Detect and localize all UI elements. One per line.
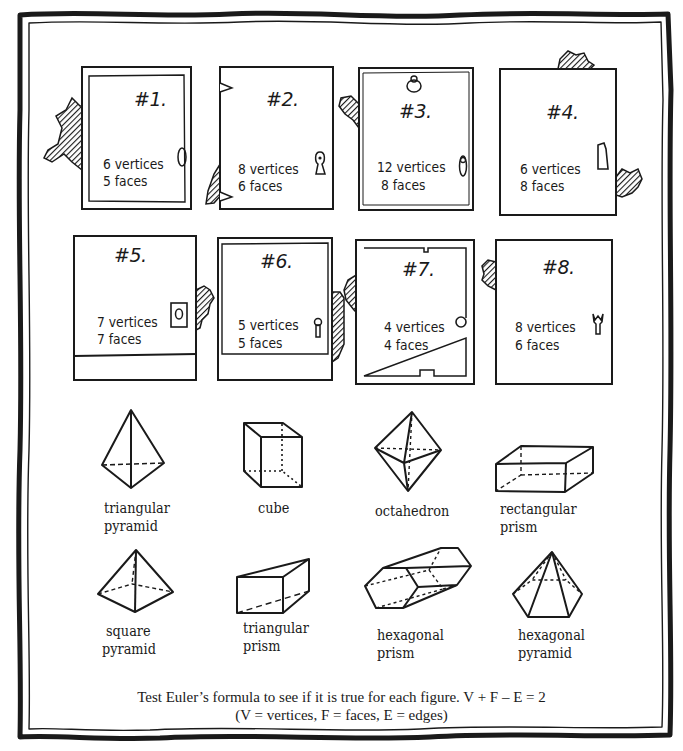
door-5-drawing	[72, 234, 222, 384]
shape-hexagonal-prism: hexagonal prism	[363, 548, 483, 666]
door-3: #3. 12 vertices 8 faces	[335, 66, 485, 216]
door-vertices: 7 vertices	[97, 314, 158, 331]
shape-label: hexagonal	[377, 626, 444, 644]
door-vertices: 6 vertices	[520, 161, 581, 178]
creature-icon	[44, 98, 82, 170]
rectangular-prism-icon	[490, 440, 630, 500]
door-vertices: 12 vertices	[377, 159, 446, 176]
shape-triangular-pyramid: triangular pyramid	[90, 405, 200, 535]
door-faces: 5 faces	[238, 335, 282, 352]
shape-octahedron: octahedron	[370, 408, 480, 528]
door-number: #3.	[399, 100, 432, 122]
shape-triangular-prism: triangular prism	[235, 555, 355, 660]
door-vertices: 4 vertices	[384, 319, 445, 336]
creature-icon	[616, 169, 642, 197]
door-vertices: 5 vertices	[238, 317, 299, 334]
shape-label: prism	[500, 518, 537, 536]
door-number: #1.	[134, 88, 167, 110]
shape-label: triangular	[243, 619, 309, 637]
door-1-drawing	[42, 66, 212, 216]
shape-cube: cube	[238, 415, 328, 525]
cube-icon	[238, 415, 328, 495]
shape-hexagonal-pyramid: hexagonal pyramid	[510, 550, 610, 668]
door-number: #6.	[260, 250, 293, 272]
door-faces: 6 faces	[515, 337, 559, 354]
shape-label: square	[106, 622, 151, 640]
triangular-pyramid-icon	[90, 405, 200, 495]
shape-label: prism	[243, 637, 280, 655]
square-pyramid-icon	[92, 548, 202, 623]
door-faces: 4 faces	[384, 337, 428, 354]
door-6: #6. 5 vertices 5 faces	[216, 234, 356, 384]
door-number: #4.	[546, 101, 579, 123]
shape-label: pyramid	[104, 517, 158, 535]
hexagonal-prism-icon	[363, 548, 483, 628]
door-number: #7.	[402, 258, 435, 280]
creature-icon	[558, 51, 594, 69]
door-faces: 5 faces	[103, 173, 147, 190]
octahedron-icon	[370, 408, 480, 498]
shape-label: cube	[258, 499, 289, 517]
creature-icon	[196, 286, 214, 330]
door-8: #8. 8 vertices 6 faces	[476, 234, 626, 389]
instruction-line-1: Test Euler’s formula to see if it is tru…	[0, 688, 683, 706]
door-vertices: 8 vertices	[238, 161, 299, 178]
door-vertices: 8 vertices	[515, 319, 576, 336]
triangular-prism-icon	[235, 555, 355, 615]
creature-icon	[482, 260, 496, 290]
door-7: #7. 4 vertices 4 faces	[338, 234, 488, 389]
door-1: #1. 6 vertices 5 faces	[42, 66, 212, 216]
creature-icon	[339, 96, 359, 128]
shape-label: hexagonal	[518, 626, 585, 644]
shape-label: rectangular	[500, 500, 577, 518]
door-faces: 8 faces	[381, 177, 425, 194]
door-5: #5. 7 vertices 7 faces	[72, 234, 222, 384]
hexagonal-pyramid-icon	[510, 550, 610, 630]
shape-label: pyramid	[518, 644, 572, 662]
door-faces: 6 faces	[238, 178, 282, 195]
door-number: #2.	[266, 88, 299, 110]
shape-label: pyramid	[102, 640, 156, 658]
shape-label: triangular	[104, 499, 170, 517]
shape-label: prism	[377, 644, 414, 662]
round-knob-icon	[456, 317, 466, 327]
shape-label: octahedron	[375, 502, 449, 520]
door-faces: 8 faces	[520, 178, 564, 195]
door-number: #8.	[542, 256, 575, 278]
door-number: #5.	[114, 244, 147, 266]
shape-square-pyramid: square pyramid	[92, 548, 202, 663]
instruction-line-2: (V = vertices, F = faces, E = edges)	[0, 706, 683, 724]
door-4: #4. 6 vertices 8 faces	[498, 45, 648, 220]
shape-rectangular-prism: rectangular prism	[490, 440, 630, 540]
door-faces: 7 faces	[97, 331, 141, 348]
door-vertices: 6 vertices	[103, 156, 164, 173]
door-2: #2. 8 vertices 6 faces	[200, 66, 340, 216]
